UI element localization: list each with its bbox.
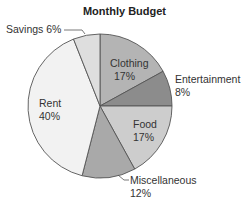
entertainment-pct: 8% xyxy=(175,86,190,98)
misc-label: Miscellaneous xyxy=(130,174,197,186)
rent-pct: 40% xyxy=(39,110,60,122)
entertainment-label: Entertainment xyxy=(175,73,240,85)
clothing-label: Clothing xyxy=(110,57,149,69)
clothing-pct: 17% xyxy=(114,70,135,82)
savings-leader-line xyxy=(64,30,85,34)
food-label: Food xyxy=(133,118,157,130)
pie-chart: Clothing 17% Food 17% Rent 40% Savings 6… xyxy=(0,0,249,206)
savings-label: Savings 6% xyxy=(6,23,61,35)
rent-label: Rent xyxy=(39,97,61,109)
food-pct: 17% xyxy=(133,131,154,143)
misc-pct: 12% xyxy=(130,187,151,199)
